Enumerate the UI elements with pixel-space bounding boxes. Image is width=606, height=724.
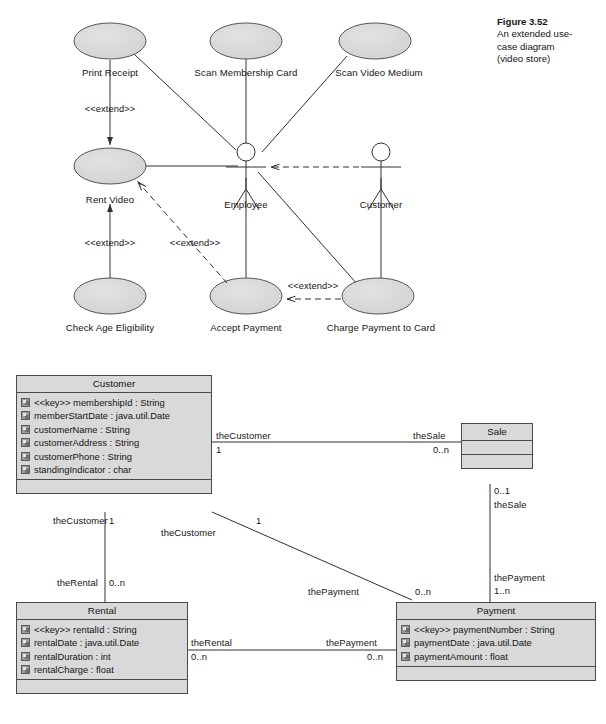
class-attribute: <<key>> membershipId : String xyxy=(17,396,211,410)
stereotype-extend-charge-card: <<extend>> xyxy=(288,281,339,292)
private-attribute-icon xyxy=(21,425,30,434)
assoc-employee-charge-card xyxy=(258,172,358,285)
class-attribute: standingIndicator : char xyxy=(17,463,211,477)
use-case-label-accept-payment: Accept Payment xyxy=(210,322,281,333)
use-case-print-receipt[interactable] xyxy=(74,23,146,59)
class-attribute: <<key>> paymentNumber : String xyxy=(397,623,595,637)
stereotype-extend-check-age: <<extend>> xyxy=(85,238,136,249)
multiplicity-label-customer-rental-to: 0..n xyxy=(109,578,125,589)
private-attribute-icon xyxy=(21,411,30,420)
use-case-accept-payment[interactable] xyxy=(210,278,282,314)
class-box-payment[interactable]: Payment <<key>> paymentNumber : String p… xyxy=(396,602,596,681)
use-case-scan-membership-card[interactable] xyxy=(210,23,282,59)
multiplicity-label-customer-sale-to: 0..n xyxy=(433,445,449,456)
use-case-label-scan-membership-card: Scan Membership Card xyxy=(195,67,298,78)
role-label-customer-payment-to: thePayment xyxy=(308,587,359,598)
role-label-customer-sale-to: theSale xyxy=(413,431,446,442)
class-attributes-customer: <<key>> membershipId : String memberStar… xyxy=(17,393,211,480)
class-operations-customer xyxy=(17,480,211,493)
class-attribute-text: paymentDate : java.util.Date xyxy=(414,637,532,648)
class-attribute: memberStartDate : java.util.Date xyxy=(17,409,211,423)
use-case-check-age-eligibility[interactable] xyxy=(74,278,146,314)
multiplicity-label-sale-payment-to: 1..n xyxy=(494,586,510,597)
class-attributes-payment: <<key>> paymentNumber : String paymentDa… xyxy=(397,620,595,667)
private-attribute-icon xyxy=(21,652,30,661)
class-attribute: paymentDate : java.util.Date xyxy=(397,636,595,650)
class-attribute-text: customerName : String xyxy=(34,424,130,435)
private-attribute-icon xyxy=(21,452,30,461)
class-operations-payment xyxy=(397,667,595,680)
class-attribute-text: paymentAmount : float xyxy=(414,651,508,662)
private-attribute-icon xyxy=(21,465,30,474)
use-case-label-rent-video: Rent Video xyxy=(86,194,134,205)
class-name-sale: Sale xyxy=(462,424,532,441)
class-attribute: paymentAmount : float xyxy=(397,650,595,664)
private-attribute-icon xyxy=(21,398,30,407)
class-name-rental: Rental xyxy=(17,603,187,620)
figure-caption-line-1: An extended use- xyxy=(497,28,597,40)
private-attribute-icon xyxy=(21,638,30,647)
role-label-rental-payment-to: thePayment xyxy=(326,638,377,649)
class-attribute: rentalCharge : float xyxy=(17,663,187,677)
class-attribute: customerPhone : String xyxy=(17,450,211,464)
role-label-sale-payment-to: thePayment xyxy=(494,573,545,584)
use-case-charge-payment-to-card[interactable] xyxy=(342,278,414,314)
stereotype-extend-accept-payment: <<extend>> xyxy=(170,238,221,249)
actor-label-employee: Employee xyxy=(224,199,267,210)
figure-caption-line-2: case diagram xyxy=(497,41,597,53)
class-box-sale[interactable]: Sale xyxy=(461,423,533,469)
multiplicity-label-customer-payment-from: 1 xyxy=(256,516,261,527)
class-attribute-text: <<key>> membershipId : String xyxy=(34,397,165,408)
class-attribute: rentalDuration : int xyxy=(17,650,187,664)
figure-number: Figure 3.52 xyxy=(497,16,597,28)
class-attribute-text: memberStartDate : java.util.Date xyxy=(34,410,170,421)
figure-page: Rent Video (solid w/ arrowhead) --> Rent… xyxy=(0,0,606,724)
class-attribute: customerAddress : String xyxy=(17,436,211,450)
class-box-customer[interactable]: Customer <<key>> membershipId : String m… xyxy=(16,375,212,494)
private-attribute-icon xyxy=(401,625,410,634)
class-attribute-text: rentalDuration : int xyxy=(34,651,111,662)
class-operations-sale xyxy=(462,455,532,468)
use-case-rent-video[interactable] xyxy=(74,148,146,184)
multiplicity-label-customer-payment-to: 0..n xyxy=(415,587,431,598)
role-label-sale-payment-from: theSale xyxy=(494,500,527,511)
stereotype-extend-print-receipt: <<extend>> xyxy=(85,104,136,115)
use-case-label-charge-payment-to-card: Charge Payment to Card xyxy=(327,322,435,333)
class-attribute-text: rentalDate : java.util.Date xyxy=(34,637,139,648)
private-attribute-icon xyxy=(401,652,410,661)
class-attribute-text: <<key>> rentalId : String xyxy=(34,624,137,635)
class-name-customer: Customer xyxy=(17,376,211,393)
class-attribute-text: customerPhone : String xyxy=(34,451,132,462)
use-case-associations xyxy=(134,54,381,286)
role-label-rental-payment-from: theRental xyxy=(191,638,232,649)
class-attribute-text: rentalCharge : float xyxy=(34,664,114,675)
multiplicity-label-customer-sale-from: 1 xyxy=(216,445,221,456)
role-label-customer-sale-from: theCustomer xyxy=(216,431,271,442)
private-attribute-icon xyxy=(21,625,30,634)
class-attribute-text: <<key>> paymentNumber : String xyxy=(414,624,555,635)
class-name-payment: Payment xyxy=(397,603,595,620)
private-attribute-icon xyxy=(401,638,410,647)
multiplicity-label-customer-rental-from: 1 xyxy=(109,516,114,527)
class-attribute: rentalDate : java.util.Date xyxy=(17,636,187,650)
extend-relationships: Rent Video (solid w/ arrowhead) --> Rent… xyxy=(110,60,359,299)
class-attribute: customerName : String xyxy=(17,423,211,437)
multiplicity-label-sale-payment-from: 0..1 xyxy=(494,486,510,497)
role-label-customer-rental-to: theRental xyxy=(57,578,98,589)
class-attribute: <<key>> rentalId : String xyxy=(17,623,187,637)
class-attribute-text: standingIndicator : char xyxy=(34,464,131,475)
private-attribute-icon xyxy=(21,665,30,674)
use-case-scan-video-medium[interactable] xyxy=(339,23,411,59)
class-operations-rental xyxy=(17,680,187,693)
use-case-label-scan-video-medium: Scan Video Medium xyxy=(335,67,422,78)
use-case-label-print-receipt: Print Receipt xyxy=(82,67,138,78)
figure-caption-line-3: (video store) xyxy=(497,53,597,65)
class-attributes-sale xyxy=(462,441,532,455)
role-label-customer-payment-from: theCustomer xyxy=(161,528,216,539)
class-box-rental[interactable]: Rental <<key>> rentalId : String rentalD… xyxy=(16,602,188,694)
class-attributes-rental: <<key>> rentalId : String rentalDate : j… xyxy=(17,620,187,680)
role-label-customer-rental-from: theCustomer xyxy=(53,516,108,527)
multiplicity-label-rental-payment-to: 0..n xyxy=(367,652,383,663)
actor-label-customer: Customer xyxy=(360,199,402,210)
use-case-label-check-age-eligibility: Check Age Eligibility xyxy=(66,322,155,333)
